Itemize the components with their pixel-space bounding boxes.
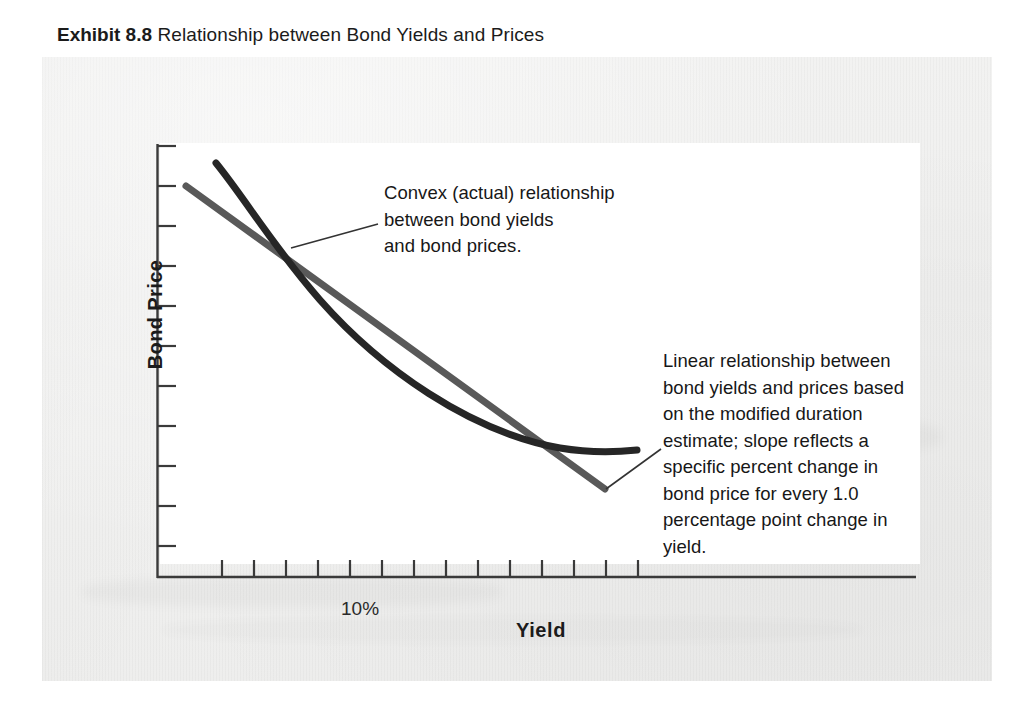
annotation-line: percentage point change in — [663, 507, 904, 534]
annotation-linear: Linear relationship between bond yields … — [663, 348, 904, 560]
y-axis-title: Bond Price — [144, 260, 167, 370]
annotation-line: estimate; slope reflects a — [663, 428, 904, 455]
annotation-convex: Convex (actual) relationship between bon… — [384, 180, 615, 260]
annotation-line: yield. — [663, 534, 904, 561]
annotation-line: specific percent change in — [663, 454, 904, 481]
figure-root: Exhibit 8.8 Relationship between Bond Yi… — [0, 0, 1036, 701]
annotation-line: bond price for every 1.0 — [663, 481, 904, 508]
x-axis-ticks — [222, 560, 638, 577]
x-axis-tick-label-10pct: 10% — [341, 598, 379, 620]
annotation-line: and bond prices. — [384, 233, 615, 260]
convex-leader-line — [291, 224, 378, 248]
x-axis-title: Yield — [516, 619, 566, 642]
annotation-line: Convex (actual) relationship — [384, 180, 615, 207]
annotation-line: between bond yields — [384, 207, 615, 234]
annotation-line: Linear relationship between — [663, 348, 904, 375]
annotation-line: on the modified duration — [663, 401, 904, 428]
annotation-line: bond yields and prices based — [663, 375, 904, 402]
